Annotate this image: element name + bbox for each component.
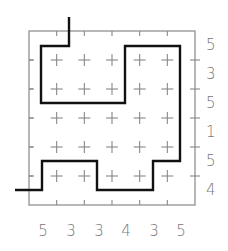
plus-icon <box>134 83 146 95</box>
plus-icon <box>51 141 63 153</box>
plus-icon <box>161 83 173 95</box>
grid-intersections <box>51 54 174 182</box>
plus-icon <box>161 112 173 124</box>
row-clue-1: 5 <box>206 38 220 53</box>
row-clue-2: 3 <box>206 67 220 82</box>
plus-icon <box>134 141 146 153</box>
solution-path <box>15 17 180 190</box>
plus-icon <box>78 83 90 95</box>
plus-icon <box>78 112 90 124</box>
plus-icon <box>51 54 63 66</box>
plus-icon <box>134 170 146 182</box>
column-clue-5: 3 <box>147 224 161 239</box>
plus-icon <box>51 112 63 124</box>
row-clue-6: 4 <box>206 183 220 198</box>
column-clue-3: 3 <box>92 224 106 239</box>
plus-icon <box>106 112 118 124</box>
column-clue-1: 5 <box>36 224 50 239</box>
column-clue-2: 3 <box>64 224 78 239</box>
plus-icon <box>78 141 90 153</box>
plus-icon <box>106 141 118 153</box>
plus-icon <box>106 83 118 95</box>
plus-icon <box>51 83 63 95</box>
column-clue-6: 5 <box>174 224 188 239</box>
plus-icon <box>134 54 146 66</box>
row-clue-4: 1 <box>206 125 220 140</box>
plus-icon <box>78 54 90 66</box>
plus-icon <box>161 54 173 66</box>
plus-icon <box>51 170 63 182</box>
row-clue-3: 5 <box>206 96 220 111</box>
plus-icon <box>78 170 90 182</box>
plus-icon <box>106 54 118 66</box>
column-clue-4: 4 <box>119 224 133 239</box>
puzzle-board[interactable] <box>0 0 228 251</box>
plus-icon <box>161 141 173 153</box>
plus-icon <box>106 170 118 182</box>
row-clue-5: 5 <box>206 154 220 169</box>
plus-icon <box>161 170 173 182</box>
plus-icon <box>134 112 146 124</box>
